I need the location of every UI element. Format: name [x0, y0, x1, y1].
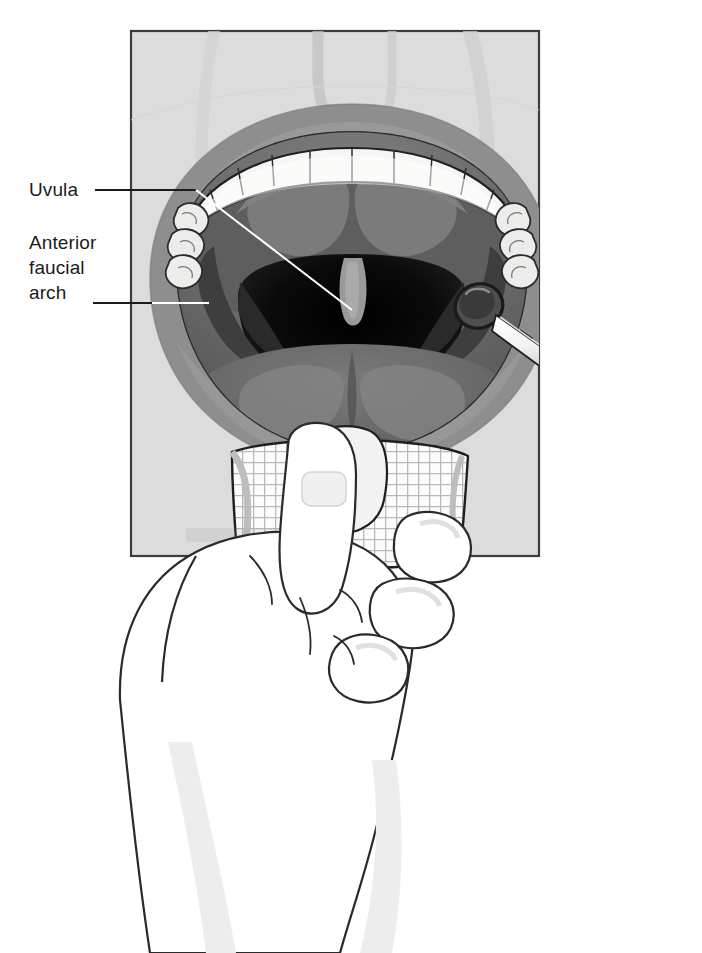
oral-examination-illustration [0, 0, 702, 953]
label-anterior-faucial-arch: Anterior faucial arch [29, 230, 96, 305]
label-line-arch: arch [29, 280, 96, 305]
label-uvula: Uvula [29, 177, 78, 202]
label-line-faucial: faucial [29, 255, 96, 280]
figure-root: Uvula Anterior faucial arch [0, 0, 702, 953]
label-line-anterior: Anterior [29, 230, 96, 255]
fingernail [302, 472, 346, 506]
